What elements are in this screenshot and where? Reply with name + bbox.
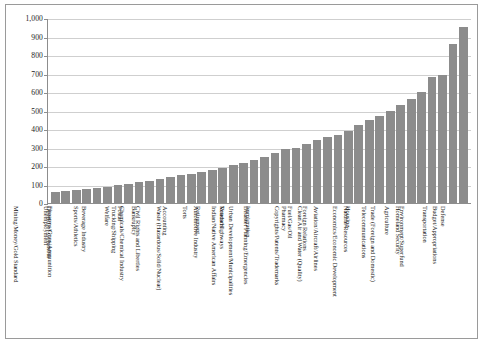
bar xyxy=(417,92,426,203)
x-axis-tick-label: Sports/Athletics xyxy=(73,206,79,246)
x-axis-labels: Mining/Money/Gold StandardUnemploymentDi… xyxy=(47,205,471,345)
x-axis-tick-label: Automotive Industry xyxy=(193,206,199,258)
x-axis-tick-label: Accounting xyxy=(162,206,168,235)
bar xyxy=(177,175,186,203)
bar xyxy=(250,160,259,203)
y-axis-tick-label: 800 xyxy=(3,52,43,60)
bar xyxy=(187,174,196,203)
x-axis-label-cell: Foreign Relations xyxy=(323,205,332,345)
x-axis-tick-label: Trucking/Shipping xyxy=(111,206,117,253)
bar xyxy=(51,192,60,203)
bar xyxy=(82,189,91,203)
y-axis-tick-label: 700 xyxy=(3,71,43,79)
bar xyxy=(114,185,123,203)
bar xyxy=(239,163,248,203)
bar xyxy=(197,172,206,203)
y-axis-tick-label: 100 xyxy=(3,182,43,190)
bar xyxy=(302,144,311,203)
bar xyxy=(229,165,238,203)
x-axis-tick-label: Chemicals/Chemical Industry xyxy=(119,206,125,281)
bar-series xyxy=(48,19,471,203)
bar xyxy=(344,131,353,203)
x-axis-label-cell: Defense xyxy=(449,205,458,345)
bar xyxy=(459,27,468,203)
y-axis-tick-label: 1,000 xyxy=(3,15,43,23)
y-axis-tick-label: 200 xyxy=(3,163,43,171)
y-axis-tick-label: 600 xyxy=(3,89,43,97)
x-axis-tick-label: Mining/Money/Gold Standard xyxy=(13,206,19,282)
bar xyxy=(365,120,374,203)
bar xyxy=(135,182,144,203)
x-axis-label-cell: Trade (Foreign and Domestic) xyxy=(407,205,416,345)
bar xyxy=(93,188,102,203)
x-axis-tick-label: Roads/Highways xyxy=(218,206,224,249)
bar xyxy=(313,140,322,203)
bar xyxy=(396,105,405,203)
x-axis-tick-label: Waste (Hazardous/Solid/Nuclear) xyxy=(156,206,162,290)
bar xyxy=(166,177,175,203)
x-axis-tick-label: Welfare xyxy=(104,206,110,226)
bar xyxy=(103,187,112,203)
bar xyxy=(124,184,133,203)
bar xyxy=(407,99,416,203)
bar xyxy=(438,75,447,203)
bar xyxy=(386,111,395,203)
bar xyxy=(375,116,384,203)
x-axis-tick-label: Firearms/Guns/Ammunition xyxy=(47,206,53,277)
x-axis-label-cell: Beverage Industry xyxy=(102,205,111,345)
x-axis-tick-label: Aviation/Aircraft/Airlines xyxy=(312,206,318,271)
bar xyxy=(145,181,154,203)
x-axis-tick-label: Defense xyxy=(440,206,446,227)
x-axis-tick-label: Fuel/Gas/Oil xyxy=(287,206,293,238)
x-axis-label-cell: Immigration xyxy=(260,205,269,345)
chart-frame: 1,0009008007006005004003002001000 Mining… xyxy=(5,4,478,339)
bar xyxy=(281,149,290,203)
plot-area: 1,0009008007006005004003002001000 xyxy=(47,19,471,204)
y-axis-tick-label: 900 xyxy=(3,34,43,42)
x-axis-label-cell: Accounting xyxy=(176,205,185,345)
x-axis-label-cell: Unemployment xyxy=(60,205,69,345)
y-axis-tick-label: 500 xyxy=(3,108,43,116)
bar xyxy=(292,148,301,204)
bar xyxy=(323,137,332,203)
x-axis-tick-label: Torts xyxy=(181,206,187,219)
y-axis-tick-label: 0 xyxy=(3,200,43,208)
x-axis-tick-label: Agriculture xyxy=(383,206,389,235)
x-axis-tick-label: Trade (Foreign and Domestic) xyxy=(370,206,376,282)
x-axis-label-cell: Bankruptcy xyxy=(144,205,153,345)
x-axis-label-cell: Budget/Appropriations xyxy=(459,205,468,345)
x-axis-label-cell: Sports/Athletics xyxy=(92,205,101,345)
bar xyxy=(354,125,363,203)
x-axis-tick-label: Disaster Planning/Emergencies xyxy=(243,206,249,284)
x-axis-tick-label: Urban Development/Municipalities xyxy=(227,206,233,295)
x-axis-tick-label: Civil Rights and Liberties xyxy=(134,206,140,271)
x-axis-tick-label: Copyrights/Patents/Trademarks xyxy=(274,206,280,285)
bar xyxy=(260,157,269,203)
bar xyxy=(271,153,280,203)
bar xyxy=(428,77,437,203)
bar xyxy=(208,170,217,203)
x-axis-tick-label: Budget/Appropriations xyxy=(431,206,437,264)
bar xyxy=(156,179,165,203)
x-axis-tick-label: Clean Air and Water (Quality) xyxy=(297,206,303,282)
x-axis-tick-label: Transportation xyxy=(421,206,427,243)
bar xyxy=(61,191,70,203)
x-axis-tick-label: Telecommunications xyxy=(361,206,367,258)
y-axis-tick-label: 300 xyxy=(3,145,43,153)
x-axis-tick-label: Natural Resources xyxy=(343,206,349,252)
x-axis-tick-label: Indian/Native American Affairs xyxy=(211,206,217,285)
x-axis-tick-label: Economics/Economic Development xyxy=(331,206,337,297)
bar xyxy=(449,44,458,203)
bar xyxy=(334,135,343,203)
bar xyxy=(72,190,81,203)
y-axis-tick-label: 400 xyxy=(3,126,43,134)
x-axis-tick-label: Beverage Industry xyxy=(80,206,86,252)
bar-chart: 1,0009008007006005004003002001000 Mining… xyxy=(47,19,471,336)
x-axis-tick-label: Environment/Superfund xyxy=(399,206,405,267)
bar xyxy=(218,168,227,203)
